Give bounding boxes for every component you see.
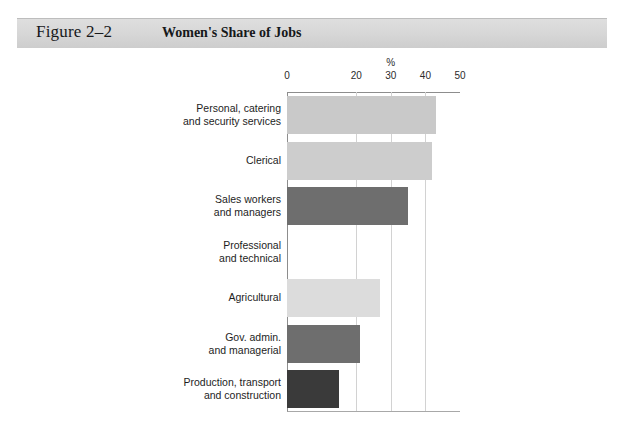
- category-label: Personal, cateringand security services: [81, 102, 281, 128]
- bar-chart: % 020304050 Personal, cateringand securi…: [0, 0, 622, 441]
- bar: [287, 279, 380, 317]
- bar: [287, 370, 339, 408]
- category-label: Clerical: [81, 154, 281, 167]
- plot-area: [287, 92, 460, 412]
- x-tick-0: 0: [272, 70, 302, 81]
- x-tick-50: 50: [445, 70, 475, 81]
- bar: [287, 142, 432, 180]
- category-label: Gov. admin.and managerial: [81, 331, 281, 357]
- x-tick-40: 40: [410, 70, 440, 81]
- category-label: Agricultural: [81, 291, 281, 304]
- bar-row: [287, 370, 339, 408]
- axis-unit-percent: %: [376, 57, 406, 68]
- bar-row: [287, 96, 436, 134]
- bar-row: [287, 142, 432, 180]
- bar-row: [287, 279, 380, 317]
- x-tick-20: 20: [341, 70, 371, 81]
- bar: [287, 96, 436, 134]
- category-label: Professionaland technical: [81, 239, 281, 265]
- bar: [287, 325, 360, 363]
- x-tick-30: 30: [376, 70, 406, 81]
- category-label: Production, transportand construction: [81, 376, 281, 402]
- bar-row: [287, 187, 408, 225]
- plot-frame: [287, 92, 460, 412]
- category-label: Sales workersand managers: [81, 193, 281, 219]
- bar-row: [287, 325, 360, 363]
- bar: [287, 187, 408, 225]
